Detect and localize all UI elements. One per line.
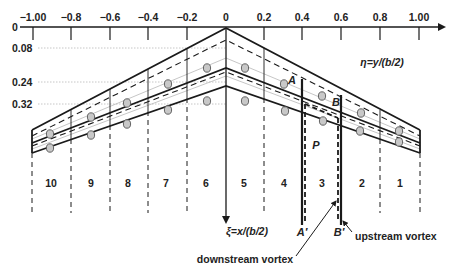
strip-number: 6 <box>203 177 209 189</box>
point-label-P: P <box>312 139 320 151</box>
eta-tick-label: 0.4 <box>295 11 310 23</box>
point-label-B: B <box>332 96 340 108</box>
xi-tick-label: 0.24 <box>12 76 33 88</box>
strip-number: 9 <box>88 177 94 189</box>
strip-number: 8 <box>125 177 131 189</box>
eta-tick-label: −1.00 <box>20 11 47 23</box>
xi-axis-label: ξ=x/(b/2) <box>226 225 268 238</box>
xi-tick-label: 0.32 <box>12 98 33 110</box>
point-label-B-prime: B′ <box>334 226 346 238</box>
eta-tick-label: 1.00 <box>409 11 430 23</box>
xi-tick-labels: 0 0.08 0.24 0.32 <box>12 21 33 110</box>
strip-number: 4 <box>281 177 287 189</box>
eta-tick-label: 0.8 <box>373 11 388 23</box>
point-label-A-prime: A′ <box>296 226 309 238</box>
strip-number: 10 <box>45 177 57 189</box>
wing-panel-diagram: −1.00 −0.8 −0.6 −0.4 −0.2 0 0.2 0.4 0.6 … <box>0 0 451 274</box>
eta-tick-label: −0.6 <box>100 11 121 23</box>
control-points <box>46 64 402 152</box>
strip-numbers: 10 9 8 7 6 5 4 3 2 1 <box>45 177 403 189</box>
point-label-A: A <box>287 74 296 86</box>
eta-tick-label: 0 <box>223 11 229 23</box>
xi-tick-label: 0.08 <box>12 42 33 54</box>
eta-tick-label: −0.8 <box>61 11 82 23</box>
eta-tick-label: −0.2 <box>177 11 198 23</box>
eta-tick-label: 0.6 <box>334 11 349 23</box>
strip-number: 3 <box>319 177 325 189</box>
upstream-vortex-label: upstream vortex <box>355 230 437 242</box>
strip-number: 2 <box>359 177 365 189</box>
downstream-vortex-label: downstream vortex <box>197 253 293 265</box>
strip-number: 5 <box>241 177 247 189</box>
xi-tick-label: 0 <box>12 21 18 33</box>
eta-tick-label: 0.2 <box>257 11 272 23</box>
strip-number: 1 <box>397 177 403 189</box>
strip-number: 7 <box>163 177 169 189</box>
eta-axis-label: η=y/(b/2) <box>360 56 404 68</box>
eta-axis: −1.00 −0.8 −0.6 −0.4 −0.2 0 0.2 0.4 0.6 … <box>20 11 444 68</box>
eta-tick-label: −0.4 <box>138 11 159 23</box>
